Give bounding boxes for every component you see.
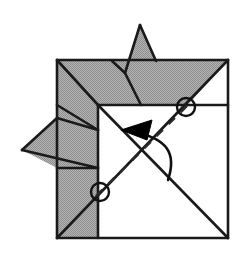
origami-diagram-canvas [0, 0, 248, 266]
origami-diagram-figure [0, 0, 248, 266]
